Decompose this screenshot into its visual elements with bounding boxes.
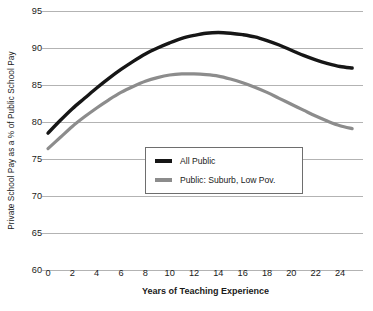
- x-tick-label: 14: [213, 268, 223, 278]
- x-tick-label: 4: [94, 268, 99, 278]
- x-tick-label: 6: [118, 268, 123, 278]
- x-tick-label: 16: [238, 268, 248, 278]
- legend-label: Public: Suburb, Low Pov.: [180, 175, 275, 185]
- legend-label: All Public: [180, 156, 215, 166]
- chart-figure: Private School Pay as a % of Public Scho…: [0, 0, 373, 311]
- legend-item-all-public: All Public: [155, 155, 215, 167]
- legend-item-suburb-low-pov: Public: Suburb, Low Pov.: [155, 174, 275, 186]
- x-tick-label: 18: [262, 268, 272, 278]
- x-tick-label: 8: [143, 268, 148, 278]
- legend-swatch-icon: [155, 178, 172, 182]
- x-tick-label: 12: [189, 268, 199, 278]
- gridlines: [42, 11, 363, 270]
- x-axis-title: Years of Teaching Experience: [48, 286, 363, 296]
- x-tick-label: 10: [165, 268, 175, 278]
- x-tick-label: 0: [45, 268, 50, 278]
- chart-legend: All Public Public: Suburb, Low Pov.: [145, 147, 303, 194]
- cropped-footnote: [14, 303, 304, 310]
- x-tick-label: 24: [335, 268, 345, 278]
- legend-swatch-icon: [155, 159, 172, 163]
- series-lines: [48, 32, 352, 148]
- x-tick-label: 2: [70, 268, 75, 278]
- x-tick-label: 20: [286, 268, 296, 278]
- x-tick-label: 22: [311, 268, 321, 278]
